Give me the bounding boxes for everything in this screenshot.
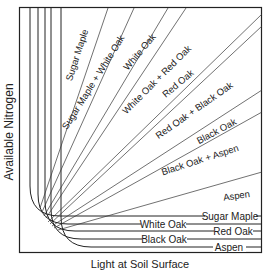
curve-label-red-oak: Red Oak	[213, 226, 253, 237]
y-axis-label: Available Nitrogen	[2, 83, 16, 180]
curve-label-sugar-maple: Sugar Maple	[202, 211, 259, 222]
curve-label-black-oak: Black Oak	[141, 234, 188, 245]
zone-label-black-oak: Black Oak	[195, 116, 239, 146]
curve-label-white-oak: White Oak	[140, 219, 188, 230]
zone-label-aspen: Aspen	[222, 188, 250, 203]
curve-label-aspen: Aspen	[215, 242, 243, 253]
x-axis-label: Light at Soil Surface	[91, 258, 189, 270]
zone-label-white-oak: White Oak	[121, 31, 158, 72]
zone-label-sugar-maple-white-oak: Sugar Maple + White Oak	[59, 33, 126, 132]
zone-label-sugar-maple: Sugar Maple	[63, 28, 90, 83]
zone-label-black-oak-aspen: Black Oak + Aspen	[160, 142, 240, 177]
species-niche-diagram: Sugar Maple Sugar Maple + White Oak Whit…	[0, 0, 266, 270]
